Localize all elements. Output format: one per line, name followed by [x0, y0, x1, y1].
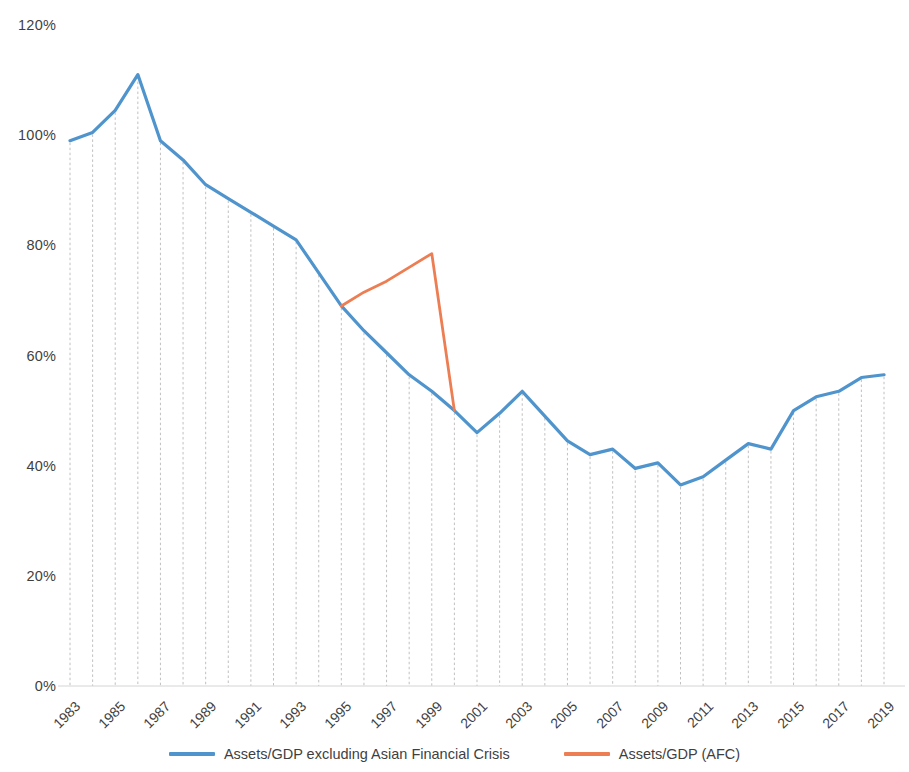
x-axis-tick-label: 2015	[766, 698, 807, 739]
legend-item[interactable]: Assets/GDP (AFC)	[564, 746, 740, 762]
x-axis: 1983198519871989199119931995199719992001…	[0, 0, 909, 772]
x-axis-tick-label: 2001	[449, 698, 490, 739]
x-axis-tick-label: 1997	[359, 698, 400, 739]
x-axis-tick-label: 1999	[404, 698, 445, 739]
x-axis-tick-label: 1991	[223, 698, 264, 739]
legend-item-label: Assets/GDP excluding Asian Financial Cri…	[224, 746, 510, 762]
legend-item-label: Assets/GDP (AFC)	[619, 746, 740, 762]
legend-color-swatch	[169, 752, 215, 756]
x-axis-tick-label: 2005	[540, 698, 581, 739]
x-axis-tick-label: 1989	[178, 698, 219, 739]
legend-color-swatch	[564, 752, 610, 756]
x-axis-tick-label: 2011	[675, 698, 716, 739]
chart-container: 0%20%40%60%80%100%120% 19831985198719891…	[0, 0, 909, 772]
x-axis-tick-label: 2019	[856, 698, 897, 739]
x-axis-tick-label: 2009	[630, 698, 671, 739]
x-axis-tick-label: 2003	[495, 698, 536, 739]
legend-item[interactable]: Assets/GDP excluding Asian Financial Cri…	[169, 746, 510, 762]
x-axis-tick-label: 1995	[314, 698, 355, 739]
x-axis-tick-label: 1985	[88, 698, 129, 739]
chart-legend: Assets/GDP excluding Asian Financial Cri…	[0, 746, 909, 762]
x-axis-tick-label: 2013	[721, 698, 762, 739]
x-axis-tick-label: 2017	[811, 698, 852, 739]
x-axis-tick-label: 1993	[268, 698, 309, 739]
x-axis-tick-label: 1987	[133, 698, 174, 739]
x-axis-tick-label: 1983	[42, 698, 83, 739]
x-axis-tick-label: 2007	[585, 698, 626, 739]
